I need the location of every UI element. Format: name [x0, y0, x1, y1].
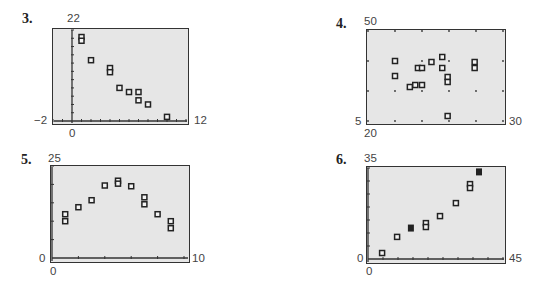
- data-point: [127, 90, 132, 95]
- data-point: [136, 98, 141, 103]
- data-point: [395, 234, 400, 239]
- data-point: [453, 201, 458, 206]
- data-point: [76, 205, 81, 210]
- data-point: [468, 186, 473, 191]
- data-point: [393, 74, 398, 79]
- grid-dot: [367, 60, 369, 62]
- data-point: [63, 219, 68, 224]
- data-point: [89, 198, 94, 203]
- data-point-filled: [476, 168, 482, 175]
- data-point: [79, 38, 84, 43]
- grid-dot: [448, 90, 450, 92]
- data-point: [142, 202, 147, 207]
- grid-dot: [475, 90, 477, 92]
- data-point: [117, 85, 122, 90]
- data-point: [89, 58, 94, 63]
- data-point: [63, 212, 68, 217]
- grid-dot: [475, 120, 477, 122]
- data-point: [440, 66, 445, 71]
- grid-dot: [421, 90, 423, 92]
- grid-dot: [421, 60, 423, 62]
- data-point: [165, 114, 170, 119]
- data-point: [129, 184, 134, 189]
- grid-dot: [367, 120, 369, 122]
- data-point: [472, 60, 477, 65]
- grid-dot: [502, 90, 504, 92]
- grid-dot: [367, 30, 369, 32]
- grid-dot: [448, 120, 450, 122]
- data-point: [155, 212, 160, 217]
- data-point: [168, 226, 173, 231]
- data-point: [413, 83, 418, 88]
- scatter-plots-layer: [0, 0, 538, 290]
- data-point: [420, 83, 425, 88]
- data-point: [102, 183, 107, 188]
- data-point: [393, 59, 398, 64]
- data-point: [445, 80, 450, 85]
- grid-dot: [394, 120, 396, 122]
- grid-dot: [502, 30, 504, 32]
- data-point: [429, 60, 434, 65]
- data-point-filled: [408, 225, 414, 232]
- data-point: [142, 195, 147, 200]
- data-point: [136, 90, 141, 95]
- grid-dot: [502, 60, 504, 62]
- data-point: [440, 55, 445, 60]
- data-point: [108, 70, 113, 75]
- grid-dot: [394, 30, 396, 32]
- data-point: [438, 214, 443, 219]
- grid-dot: [367, 90, 369, 92]
- data-point: [445, 114, 450, 119]
- data-point: [146, 102, 151, 107]
- grid-dot: [421, 120, 423, 122]
- grid-dot: [448, 60, 450, 62]
- grid-dot: [448, 30, 450, 32]
- data-point: [420, 66, 425, 71]
- data-point: [116, 181, 121, 186]
- grid-dot: [502, 120, 504, 122]
- data-point: [423, 225, 428, 230]
- data-point: [168, 219, 173, 224]
- grid-dot: [475, 30, 477, 32]
- grid-dot: [421, 30, 423, 32]
- data-point: [380, 251, 385, 256]
- data-point: [407, 85, 412, 90]
- data-point: [472, 66, 477, 71]
- grid-dot: [394, 90, 396, 92]
